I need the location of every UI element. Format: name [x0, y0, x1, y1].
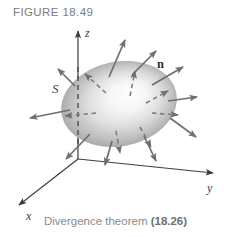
figure-container: FIGURE 18.49 z — [0, 0, 231, 237]
figure-caption: Divergence theorem (18.26) — [0, 215, 231, 227]
divergence-theorem-diagram: z y x — [0, 0, 231, 237]
axis-y-line — [78, 159, 213, 173]
surface-label-S: S — [52, 81, 59, 96]
normal-vector-label-n: n — [157, 57, 164, 71]
normal-arrow — [58, 69, 75, 86]
axis-x-line — [19, 159, 78, 205]
figure-caption-reference: (18.26) — [151, 215, 187, 227]
axis-y-label: y — [206, 181, 213, 195]
axis-y: y — [78, 159, 213, 195]
figure-caption-text: Divergence theorem — [44, 215, 151, 227]
axis-x: x — [19, 159, 78, 223]
axis-z-label: z — [84, 26, 90, 40]
normal-arrow — [170, 118, 196, 137]
normal-arrow — [144, 136, 156, 161]
surface-ellipsoid-body — [54, 52, 184, 157]
surface-ellipsoid — [54, 52, 184, 157]
